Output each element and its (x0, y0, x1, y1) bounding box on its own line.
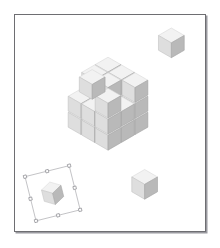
selected-cube-group[interactable] (23, 164, 82, 223)
selection-handle-middle-right[interactable] (73, 186, 77, 190)
detached-cube-bottom[interactable] (132, 170, 158, 200)
illustration-page: Exploded Cube Illustration (0, 0, 220, 248)
selection-handle-bottom-left[interactable] (34, 219, 38, 223)
selected-cube[interactable] (40, 180, 65, 207)
illustration-frame (14, 14, 206, 232)
selection-handle-bottom-right[interactable] (78, 208, 82, 212)
selection-handle-top-right[interactable] (67, 164, 71, 168)
selection-handle-top-center[interactable] (45, 169, 49, 173)
cube-stack[interactable] (68, 57, 148, 150)
selection-handle-middle-left[interactable] (29, 197, 33, 201)
detached-cube-top-right[interactable] (158, 28, 184, 58)
selection-handle-bottom-center[interactable] (56, 214, 60, 218)
selection-handle-top-left[interactable] (23, 175, 27, 179)
selected-cube-transform[interactable] (23, 164, 82, 223)
scene-canvas (15, 15, 205, 231)
